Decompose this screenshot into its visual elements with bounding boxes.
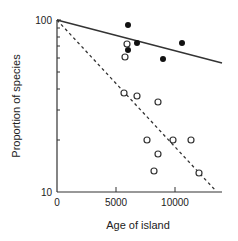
data-point-filled [134,40,140,46]
data-point-filled [179,40,185,46]
x-tick-label-10000: 10000 [161,197,189,208]
x-tick-label-0: 0 [54,197,60,208]
y-tick-label-10: 10 [41,187,53,198]
x-axis-label: Age of island [106,219,170,231]
data-point-filled [160,56,166,62]
y-tick-label-100: 100 [35,15,52,26]
filled-points [125,22,185,62]
y-axis-label: Proportion of species [10,54,22,158]
data-point-filled [125,47,131,53]
data-point-open [151,168,157,174]
x-ticks [116,187,175,192]
data-point-open [155,151,161,157]
data-point-open [155,99,161,105]
data-point-open [121,90,127,96]
scatter-chart: 100 10 0 5000 10000 Age of island Propor… [0,0,238,241]
data-point-open [122,54,128,60]
data-point-open [170,137,176,143]
data-point-open [196,170,202,176]
data-point-open [134,93,140,99]
x-tick-label-5000: 5000 [105,197,128,208]
data-point-open [188,137,194,143]
data-point-open [144,137,150,143]
data-point-filled [125,22,131,28]
data-point-open [124,41,130,47]
